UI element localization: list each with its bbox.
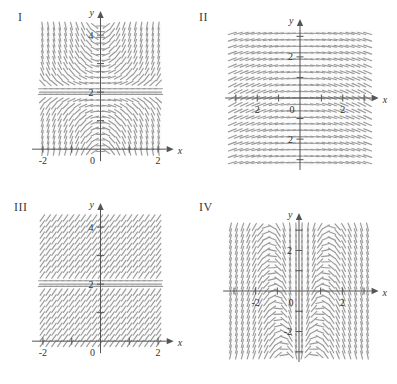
- y-axis-name: y: [288, 15, 294, 26]
- svg-text:2: 2: [156, 347, 161, 358]
- svg-text:2: 2: [89, 87, 94, 98]
- panel-III: III -22024xy: [0, 192, 197, 384]
- svg-text:-2: -2: [39, 347, 47, 358]
- svg-text:4: 4: [89, 222, 94, 233]
- panel-label-II: II: [199, 10, 208, 25]
- plot-area-III: -22024xy: [8, 200, 193, 378]
- y-axis-name: y: [287, 209, 293, 220]
- x-axis-name: x: [382, 94, 388, 105]
- direction-field-svg-III: -22024xy: [8, 200, 193, 378]
- svg-text:2: 2: [89, 279, 94, 290]
- plot-area-IV: -220-22xy: [207, 206, 395, 376]
- plot-area-I: -22024xy: [8, 8, 193, 186]
- x-axis-name: x: [177, 145, 183, 156]
- panel-II: II 22022xy: [197, 0, 397, 192]
- direction-field-figure: I -22024xy II 22022xy III -22024xy IV -2…: [0, 0, 397, 384]
- svg-text:0: 0: [90, 347, 95, 358]
- svg-text:-2: -2: [251, 297, 259, 308]
- panel-I: I -22024xy: [0, 0, 197, 192]
- svg-text:2: 2: [255, 104, 260, 115]
- direction-field-svg-IV: -220-22xy: [207, 206, 395, 376]
- plot-area-II: 22022xy: [209, 12, 395, 184]
- y-axis-name: y: [89, 200, 95, 210]
- direction-field-svg-I: -22024xy: [8, 8, 193, 186]
- svg-text:0: 0: [90, 155, 95, 166]
- panel-IV: IV -220-22xy: [197, 192, 397, 384]
- svg-text:2: 2: [288, 134, 293, 145]
- y-axis-name: y: [89, 8, 95, 18]
- svg-text:4: 4: [89, 30, 94, 41]
- svg-text:-2: -2: [39, 155, 47, 166]
- x-axis-name: x: [382, 287, 388, 298]
- svg-text:0: 0: [289, 297, 294, 308]
- svg-text:2: 2: [340, 297, 345, 308]
- svg-text:2: 2: [156, 155, 161, 166]
- svg-text:2: 2: [340, 104, 345, 115]
- svg-text:2: 2: [288, 51, 293, 62]
- direction-field-svg-II: 22022xy: [209, 12, 395, 184]
- svg-text:-2: -2: [284, 326, 292, 337]
- svg-text:2: 2: [287, 245, 292, 256]
- svg-text:0: 0: [290, 104, 295, 115]
- x-axis-name: x: [177, 337, 183, 348]
